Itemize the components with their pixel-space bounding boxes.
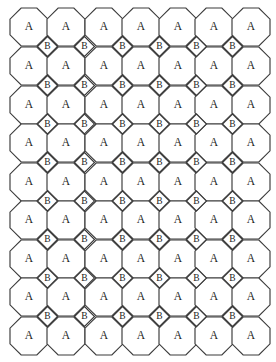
- tile-label-a: A: [174, 252, 183, 264]
- tile-label-a: A: [62, 20, 71, 32]
- tile-label-b: B: [229, 273, 235, 283]
- tile-label-b: B: [156, 80, 162, 90]
- tile-label-a: A: [100, 98, 109, 110]
- tile-label-a: A: [174, 98, 183, 110]
- tile-label-b: B: [193, 157, 199, 167]
- tile-label-b: B: [44, 273, 50, 283]
- tile-label-b: B: [156, 273, 162, 283]
- tile-label-a: A: [25, 20, 34, 32]
- tile-label-b: B: [119, 234, 125, 244]
- tile-label-b: B: [44, 234, 50, 244]
- tile-label-a: A: [100, 290, 109, 302]
- tile-label-b: B: [229, 234, 235, 244]
- tile-label-b: B: [44, 119, 50, 129]
- tile-label-b: B: [44, 196, 50, 206]
- tile-label-a: A: [100, 175, 109, 187]
- tile-label-a: A: [137, 290, 146, 302]
- tile-label-b: B: [119, 157, 125, 167]
- tile-label-b: B: [229, 80, 235, 90]
- tile-label-a: A: [247, 136, 256, 148]
- tile-label-b: B: [156, 196, 162, 206]
- tile-label-a: A: [247, 20, 256, 32]
- tile-label-b: B: [81, 41, 87, 51]
- tile-label-a: A: [100, 252, 109, 264]
- tile-label-a: A: [25, 175, 34, 187]
- tile-label-a: A: [62, 252, 71, 264]
- tile-label-b: B: [81, 311, 87, 321]
- tile-label-a: A: [62, 136, 71, 148]
- tile-label-a: A: [62, 98, 71, 110]
- tile-label-b: B: [193, 119, 199, 129]
- tile-label-a: A: [62, 290, 71, 302]
- tile-label-a: A: [210, 20, 219, 32]
- tile-label-b: B: [193, 234, 199, 244]
- tile-label-a: A: [137, 59, 146, 71]
- tile-label-a: A: [137, 20, 146, 32]
- tile-label-a: A: [174, 136, 183, 148]
- tile-label-a: A: [25, 252, 34, 264]
- tile-label-a: A: [137, 213, 146, 225]
- tile-label-a: A: [247, 290, 256, 302]
- tile-label-b: B: [119, 196, 125, 206]
- tile-label-a: A: [174, 213, 183, 225]
- tile-label-a: A: [247, 329, 256, 341]
- tile-label-a: A: [174, 290, 183, 302]
- tile-label-a: A: [100, 136, 109, 148]
- tile-label-a: A: [137, 175, 146, 187]
- tile-label-a: A: [100, 20, 109, 32]
- tile-label-a: A: [62, 175, 71, 187]
- tile-label-a: A: [25, 136, 34, 148]
- tile-label-b: B: [229, 41, 235, 51]
- tile-label-b: B: [156, 311, 162, 321]
- tile-label-b: B: [81, 157, 87, 167]
- tiling-canvas: AAAAAAAAAAAAAAAAAAAAAAAAAAAAAAAAAAAAAAAA…: [0, 0, 276, 362]
- tile-label-b: B: [193, 196, 199, 206]
- tile-label-a: A: [100, 59, 109, 71]
- tile-label-a: A: [137, 136, 146, 148]
- tile-label-a: A: [25, 329, 34, 341]
- tile-label-a: A: [247, 175, 256, 187]
- tile-label-b: B: [229, 196, 235, 206]
- tile-label-a: A: [62, 213, 71, 225]
- tile-label-a: A: [100, 213, 109, 225]
- tile-label-b: B: [193, 311, 199, 321]
- tile-label-b: B: [81, 119, 87, 129]
- tile-label-b: B: [81, 234, 87, 244]
- tile-label-a: A: [247, 213, 256, 225]
- tile-label-b: B: [193, 41, 199, 51]
- tile-label-a: A: [210, 136, 219, 148]
- tile-label-b: B: [119, 119, 125, 129]
- tile-label-a: A: [137, 252, 146, 264]
- tile-label-a: A: [174, 329, 183, 341]
- tile-label-a: A: [210, 329, 219, 341]
- tile-label-a: A: [174, 20, 183, 32]
- tile-label-b: B: [44, 157, 50, 167]
- tile-label-b: B: [44, 311, 50, 321]
- tiling-figure: AAAAAAAAAAAAAAAAAAAAAAAAAAAAAAAAAAAAAAAA…: [0, 0, 276, 362]
- tile-label-a: A: [25, 98, 34, 110]
- tile-label-b: B: [229, 311, 235, 321]
- tile-label-a: A: [210, 59, 219, 71]
- tile-label-b: B: [193, 80, 199, 90]
- tile-label-b: B: [81, 273, 87, 283]
- tile-label-b: B: [119, 311, 125, 321]
- tile-label-a: A: [62, 59, 71, 71]
- tile-label-b: B: [156, 157, 162, 167]
- tile-label-a: A: [100, 329, 109, 341]
- tile-label-b: B: [156, 41, 162, 51]
- tile-label-b: B: [119, 273, 125, 283]
- octagon-tile-layer: AAAAAAAAAAAAAAAAAAAAAAAAAAAAAAAAAAAAAAAA…: [10, 8, 270, 355]
- tile-label-a: A: [210, 98, 219, 110]
- tile-label-b: B: [81, 80, 87, 90]
- tile-label-b: B: [44, 80, 50, 90]
- tile-label-b: B: [119, 41, 125, 51]
- tile-label-a: A: [137, 329, 146, 341]
- tile-label-a: A: [247, 59, 256, 71]
- tile-label-a: A: [137, 98, 146, 110]
- tile-label-a: A: [210, 213, 219, 225]
- tile-label-a: A: [174, 175, 183, 187]
- tile-label-a: A: [174, 59, 183, 71]
- tile-label-a: A: [247, 252, 256, 264]
- tile-label-a: A: [210, 290, 219, 302]
- tile-label-b: B: [229, 119, 235, 129]
